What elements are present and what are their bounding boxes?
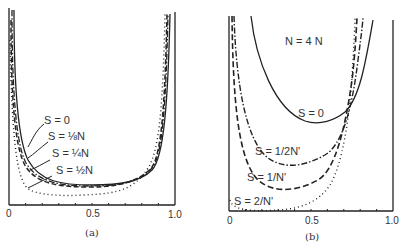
panel-a-labels: S = 0 S = ⅛N S = ¼N S = ½N 0 0.5 1.0 (a) (6, 114, 182, 238)
panel-a-tick-1: 1.0 (168, 209, 182, 220)
figure: S = 0 S = ⅛N S = ¼N S = ½N 0 0.5 1.0 (a)… (0, 0, 402, 245)
panel-b-label-s-two: S = 2/N' (234, 195, 273, 207)
panel-b-label-s0: S = 0 (298, 107, 324, 119)
panel-b-label-s-half: S = 1/2N' (255, 145, 300, 157)
panel-a-label-s-half: S = ½N (56, 164, 93, 176)
panel-a-curve-s-eighth (12, 10, 168, 186)
panel-b-tick-1: 1.0 (385, 215, 399, 226)
panel-a-label-s0: S = 0 (44, 114, 70, 126)
panel-b-header: N = 4 N (285, 35, 323, 47)
panel-a-arrow-s-quarter (30, 160, 50, 170)
panel-a-curve-s0 (14, 10, 170, 185)
panel-b-tick-0: 0 (227, 215, 233, 226)
panel-a-arrow-s0 (28, 124, 44, 147)
panel-a-caption: (a) (85, 227, 99, 238)
panel-a-tick-0: 0 (6, 208, 12, 219)
panel-a-arrow-s-eighth (28, 142, 48, 158)
panel-b-caption: (b) (305, 231, 319, 242)
panel-b-label-s-one: S = 1/N' (247, 171, 286, 183)
panel-b-tick-05: 0.5 (305, 215, 319, 226)
panel-a-tick-05: 0.5 (86, 208, 100, 219)
panel-a-curve-s-quarter (11, 14, 167, 187)
panel-a-label-s-quarter: S = ¼N (52, 147, 89, 159)
panel-a-label-s-eighth: S = ⅛N (48, 130, 85, 142)
